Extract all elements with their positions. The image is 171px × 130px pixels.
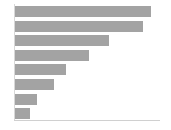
bar (15, 6, 151, 17)
bar-series (15, 5, 160, 120)
bar (15, 50, 89, 61)
plot-area (15, 5, 160, 120)
x-axis-baseline (14, 120, 160, 121)
bar (15, 94, 37, 105)
bar (15, 108, 30, 119)
bar (15, 21, 143, 32)
bar (15, 64, 66, 75)
bar-chart (0, 0, 171, 130)
bar (15, 35, 109, 46)
bar (15, 79, 54, 90)
